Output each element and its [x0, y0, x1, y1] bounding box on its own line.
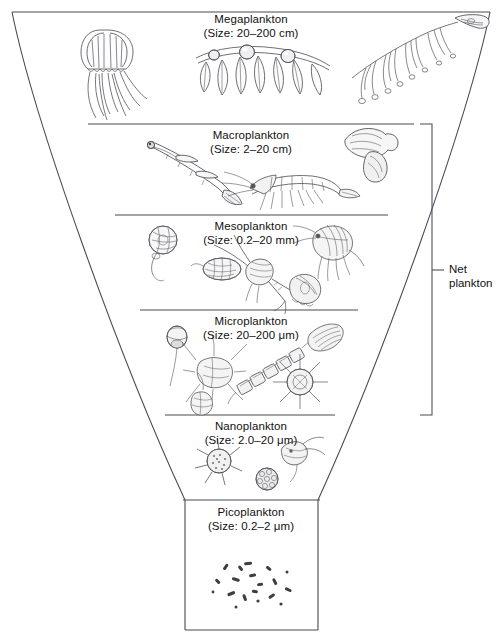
band-name-nanoplankton: Nanoplankton: [0, 420, 502, 434]
net-plankton-bracket: [420, 124, 444, 415]
organism-ostracod: [290, 274, 321, 306]
band-label-megaplankton: Megaplankton (Size: 20–200 cm): [0, 13, 502, 40]
organism-jellyfish: [81, 30, 147, 120]
net-plankton-line2: plankton: [449, 276, 492, 290]
band-label-macroplankton: Macroplankton (Size: 2–20 cm): [0, 129, 502, 156]
organism-salp-chain: [196, 45, 330, 95]
band-name-picoplankton: Picoplankton: [0, 506, 502, 520]
organism-ceratium-dinoflagellate: [182, 334, 247, 402]
band-label-mesoplankton: Mesoplankton (Size: 0.2–20 mm): [0, 220, 502, 247]
band-size-microplankton: (Size: 20–200 μm): [0, 329, 502, 343]
organism-coccolithophore: [256, 468, 278, 490]
band-size-macroplankton: (Size: 2–20 cm): [0, 143, 502, 157]
band-size-megaplankton: (Size: 20–200 cm): [0, 27, 502, 41]
organism-bacteria: [212, 561, 292, 608]
band-label-picoplankton: Picoplankton (Size: 0.2–2 μm): [0, 506, 502, 533]
band-name-megaplankton: Megaplankton: [0, 13, 502, 27]
band-size-picoplankton: (Size: 0.2–2 μm): [0, 520, 502, 534]
band-size-mesoplankton: (Size: 0.2–20 mm): [0, 234, 502, 248]
band-size-nanoplankton: (Size: 2.0–20 μm): [0, 434, 502, 448]
plankton-size-diagram: Megaplankton (Size: 20–200 cm) Macroplan…: [0, 0, 502, 636]
net-plankton-line1: Net: [449, 262, 492, 276]
band-label-microplankton: Microplankton (Size: 20–200 μm): [0, 315, 502, 342]
band-name-microplankton: Microplankton: [0, 315, 502, 329]
band-name-macroplankton: Macroplankton: [0, 129, 502, 143]
band-label-nanoplankton: Nanoplankton (Size: 2.0–20 μm): [0, 420, 502, 447]
band-name-mesoplankton: Mesoplankton: [0, 220, 502, 234]
net-plankton-label: Net plankton: [449, 262, 492, 291]
organism-krill: [222, 172, 360, 210]
organism-crab-zoea: [191, 258, 241, 280]
